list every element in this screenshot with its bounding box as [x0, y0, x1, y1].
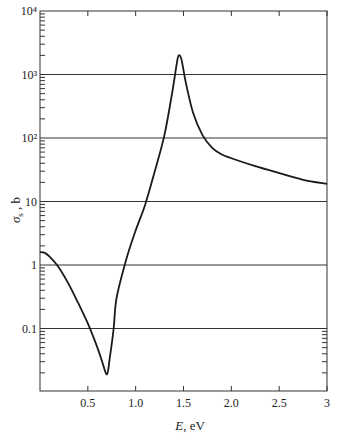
- y-tick-label: 1: [31, 258, 37, 272]
- y-tick-label: 10²: [21, 131, 37, 145]
- x-tick-label: 1.0: [128, 396, 143, 410]
- x-axis-ticks: 0.51.01.52.02.53: [80, 11, 330, 410]
- cross-section-curve: [40, 55, 327, 374]
- x-axis-title: E, eV: [174, 418, 205, 433]
- gridlines: [40, 75, 327, 329]
- x-tick-label: 0.5: [80, 396, 95, 410]
- x-tick-label: 1.5: [176, 396, 191, 410]
- y-tick-label: 10: [25, 195, 37, 209]
- x-tick-label: 3: [324, 396, 330, 410]
- y-axis-title: σs , b: [8, 197, 25, 223]
- y-tick-label: 0.1: [22, 322, 37, 336]
- y-tick-label: 10⁴: [21, 4, 37, 18]
- x-tick-label: 2.5: [272, 396, 287, 410]
- cross-section-chart: 0.51.01.52.02.53 0.111010²10³10⁴ σs , b …: [0, 0, 338, 440]
- y-tick-label: 10³: [21, 68, 37, 82]
- y-axis-ticks: 0.111010²10³10⁴: [21, 4, 38, 336]
- x-tick-label: 2.0: [224, 396, 239, 410]
